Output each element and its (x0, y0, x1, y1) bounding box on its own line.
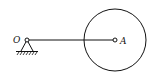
mechanism-diagram: O A (0, 0, 155, 76)
label-A: A (119, 36, 127, 46)
point-A (113, 38, 117, 42)
pin-O (25, 38, 29, 42)
label-O: O (13, 35, 21, 45)
ground-hatch (17, 52, 37, 55)
